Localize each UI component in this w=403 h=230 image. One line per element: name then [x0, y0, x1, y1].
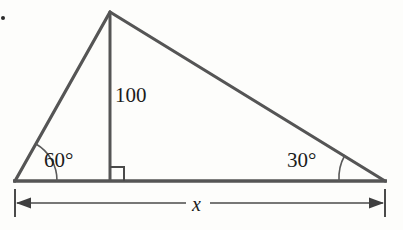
- angle-arc-right: [339, 155, 345, 181]
- base-length-label: x: [192, 194, 201, 214]
- dimension-arrowhead-right: [369, 198, 384, 209]
- height-label: 100: [115, 85, 147, 106]
- diagram-canvas: 60° 30° 100 x: [0, 0, 403, 230]
- right-angle-marker: [110, 167, 124, 181]
- triangle-figure: [0, 0, 403, 230]
- angle-label-left: 60°: [44, 150, 73, 171]
- dimension-arrowhead-left: [16, 198, 31, 209]
- angle-label-right: 30°: [287, 150, 316, 171]
